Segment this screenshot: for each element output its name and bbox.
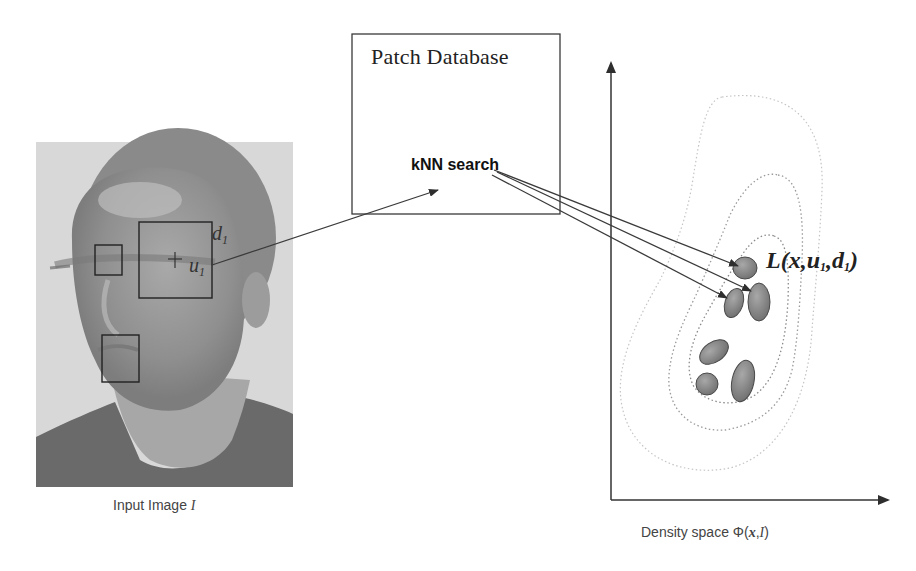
- patch-database-title: Patch Database: [371, 44, 509, 70]
- density-contours: [620, 96, 822, 471]
- likelihood-label: L(x,u1,d1): [766, 247, 858, 275]
- density-space-caption: Density space Φ(x,I): [641, 524, 769, 541]
- knn-arrows: [492, 170, 751, 298]
- patch-center-label: u1: [189, 254, 205, 280]
- density-ellipses: [695, 257, 770, 404]
- patch-size-label: d1: [212, 222, 228, 248]
- input-face-image: [36, 128, 293, 487]
- knn-search-label: kNN search: [411, 156, 499, 174]
- diagram-canvas: [0, 0, 916, 571]
- input-image-caption: Input Image I: [113, 497, 196, 514]
